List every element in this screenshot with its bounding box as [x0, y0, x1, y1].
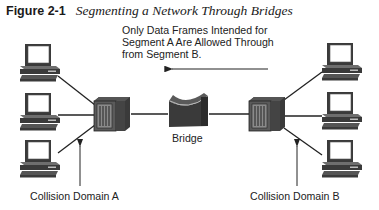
bridge-icon	[169, 93, 208, 127]
segment-b-links	[284, 72, 322, 155]
computer-icon	[322, 92, 362, 130]
bridge-label: Bridge	[172, 132, 203, 144]
segment-a-links	[58, 76, 95, 153]
network-diagram	[0, 0, 379, 210]
collision-domain-b-label: Collision Domain B	[250, 190, 340, 202]
computer-icon	[20, 140, 60, 178]
computer-icon	[322, 140, 362, 178]
hub-a-icon	[94, 97, 130, 131]
hub-b-icon	[249, 97, 285, 131]
computer-icon	[322, 43, 362, 81]
computer-icon	[20, 44, 60, 82]
computer-icon	[20, 93, 60, 131]
collision-domain-a-label: Collision Domain A	[30, 190, 119, 202]
